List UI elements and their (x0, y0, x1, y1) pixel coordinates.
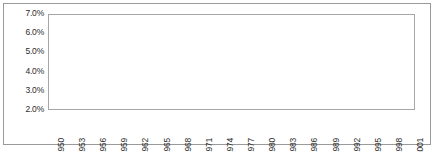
y-axis-tick-label: 7.0% (25, 9, 44, 18)
x-axis-tick-labels: 1950195319561959196219651968197119741977… (0, 113, 435, 143)
figure-caption (0, 143, 435, 152)
screenshot-root: 7.0%6.0%5.0%4.0%3.0%2.0% 195019531956195… (0, 0, 435, 152)
y-axis-tick-label: 3.0% (25, 86, 44, 95)
y-axis-tick-label: 5.0% (25, 47, 44, 56)
y-axis-tick-label: 4.0% (25, 67, 44, 76)
y-axis-tick-label: 6.0% (25, 28, 44, 37)
line-chart-figure: 7.0%6.0%5.0%4.0%3.0%2.0% 195019531956195… (0, 0, 435, 152)
plot-frame (48, 14, 415, 110)
plot-area (48, 14, 415, 110)
